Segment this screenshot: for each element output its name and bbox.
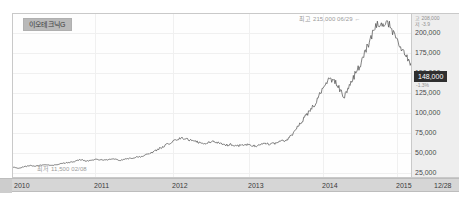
price-tick-label: 50,000 [415,149,436,157]
price-tick-label: 25,000 [415,169,436,177]
date-tick-label: 2010 [14,182,30,190]
high-annotation-text: 최고 215,000 06/29 [299,16,353,22]
ticker-label-badge[interactable]: 이오테크닉G [23,18,72,31]
current-price-badge[interactable]: 148,000 [414,71,447,82]
price-tick-label: 125,000 [415,89,440,97]
price-line-series [13,14,411,177]
date-tick-label: 2013 [248,182,264,190]
high-price-annotation: 최고 215,000 06/29 ← [299,16,361,23]
date-tick-label: 2011 [94,182,109,190]
price-axis[interactable]: 고 208,000 저 -3.9 200,000 175,000 150,000… [412,13,459,178]
chart-plot-area[interactable]: 이오테크닉G 최고 215,000 06/29 ← 최저 11,500 02/0… [12,13,412,178]
low-price-annotation: 최저 11,500 02/08 [37,166,87,173]
price-tick-label: 200,000 [415,29,440,37]
price-tick-label: 175,000 [415,49,440,57]
axis-stats-readout: 고 208,000 저 -3.9 [415,15,439,27]
stock-chart-widget[interactable]: 이오테크닉G 최고 215,000 06/29 ← 최저 11,500 02/0… [0,0,459,205]
axis-stats-line-2: 저 -3.9 [415,21,439,27]
date-axis[interactable]: 2010 2011 2012 2013 2014 2015 12/28 [0,178,459,192]
current-change-label: -1.3% [416,82,429,88]
date-axis-corner [0,179,12,193]
date-tick-label: 2012 [172,182,188,190]
price-tick-label: 100,000 [415,109,440,117]
date-tick-label: 12/28 [434,182,452,190]
date-tick-label: 2015 [396,182,412,190]
price-tick-label: 75,000 [415,129,436,137]
date-tick-label: 2014 [322,182,338,190]
high-annotation-arrow-icon: ← [354,16,360,22]
